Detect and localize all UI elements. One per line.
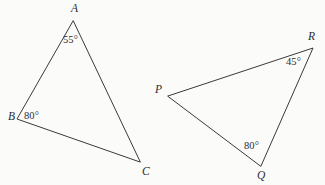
triangles-canvas — [0, 0, 325, 185]
vertex-label-q: Q — [257, 170, 266, 182]
triangle-abc-outline — [17, 21, 140, 162]
angle-label-q: 80° — [244, 141, 259, 152]
vertex-label-a: A — [71, 3, 78, 15]
vertex-label-c: C — [142, 166, 150, 178]
vertex-label-r: R — [308, 31, 315, 43]
geometry-figure: A B C 55° 80° P Q R 45° 80° — [0, 0, 325, 185]
vertex-label-b: B — [8, 111, 15, 123]
triangle-abc — [17, 21, 140, 162]
angle-label-b: 80° — [24, 111, 39, 122]
angle-label-a: 55° — [63, 35, 78, 46]
angle-label-r: 45° — [286, 57, 301, 68]
vertex-label-p: P — [155, 84, 162, 96]
